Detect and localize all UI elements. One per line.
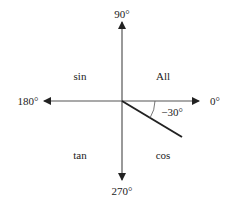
label-270: 270°: [112, 185, 133, 197]
quadrant-tan: tan: [73, 149, 86, 161]
quadrant-cos: cos: [156, 149, 171, 161]
label-90: 90°: [114, 8, 129, 20]
quadrant-all: All: [156, 70, 170, 82]
label-180: 180°: [18, 95, 39, 107]
angle-arc: [150, 101, 155, 118]
quadrant-sin: sin: [74, 70, 87, 82]
label-0: 0°: [210, 95, 220, 107]
angle-label: −30°: [161, 106, 183, 118]
